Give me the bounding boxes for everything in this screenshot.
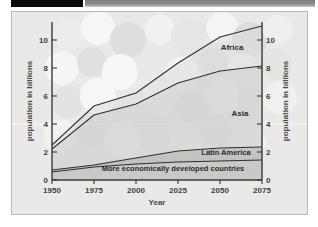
y-tick-label-right-0: 0 bbox=[266, 176, 271, 185]
y-tick-label-left-8: 8 bbox=[44, 64, 49, 73]
series-annotation-africa: Africa bbox=[221, 43, 244, 52]
y-tick-label-left-6: 6 bbox=[44, 92, 49, 101]
y-axis-title-right: population in billions bbox=[281, 60, 290, 141]
y-tick-label-left-4: 4 bbox=[44, 120, 49, 129]
x-tick-label-1975: 1975 bbox=[85, 186, 103, 195]
x-tick-label-1950: 1950 bbox=[43, 186, 61, 195]
y-tick-label-right-10: 10 bbox=[266, 36, 275, 45]
series-annotation-medc: More economically developed countries bbox=[102, 164, 245, 173]
y-tick-label-right-4: 4 bbox=[266, 120, 271, 129]
x-tick-label-2075: 2075 bbox=[253, 186, 271, 195]
series-annotation-asia: Asia bbox=[232, 109, 249, 118]
x-tick-label-2025: 2025 bbox=[169, 186, 187, 195]
population-area-chart: 10 8 6 4 2 0 10 8 6 4 2 0 1950 1975 2000… bbox=[0, 0, 318, 227]
x-tick-label-2000: 2000 bbox=[127, 186, 145, 195]
y-tick-label-right-8: 8 bbox=[266, 64, 271, 73]
y-tick-label-right-6: 6 bbox=[266, 92, 271, 101]
y-tick-label-left-0: 0 bbox=[44, 176, 49, 185]
y-tick-label-right-2: 2 bbox=[266, 148, 271, 157]
series-annotation-latin-america: Latin America bbox=[201, 148, 251, 157]
y-tick-label-left-10: 10 bbox=[39, 36, 48, 45]
x-axis-title: Year bbox=[149, 198, 166, 207]
y-axis-title-left: population in billions bbox=[25, 60, 34, 141]
x-tick-label-2050: 2050 bbox=[211, 186, 229, 195]
y-tick-label-left-2: 2 bbox=[44, 148, 49, 157]
